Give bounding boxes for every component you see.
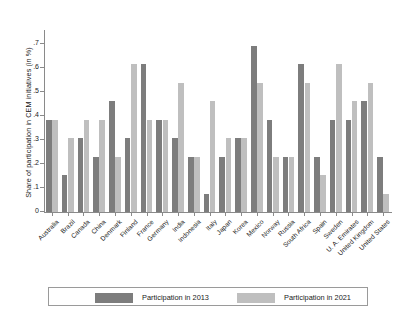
y-tick-label: 0 (35, 206, 39, 215)
bar-2013 (361, 101, 367, 212)
y-tick-label: .4 (33, 110, 39, 119)
x-tick-mark (83, 213, 84, 216)
x-tick-mark (225, 213, 226, 216)
bar-2021 (210, 101, 216, 212)
x-tick-mark (288, 213, 289, 216)
bar-group (186, 32, 202, 212)
bar-group (375, 32, 391, 212)
bar-2013 (346, 120, 352, 212)
bar-group (44, 32, 60, 212)
bar-2021 (352, 101, 358, 212)
bar-2021 (84, 120, 90, 212)
y-tick-p3: .3 (32, 139, 44, 140)
bar-2013 (188, 157, 194, 212)
bar-2021 (99, 120, 105, 212)
bar-2021 (178, 83, 184, 212)
bar-group (76, 32, 92, 212)
bar-group (202, 32, 218, 212)
y-tick-label: .6 (33, 62, 39, 71)
y-tick-p5: .5 (32, 91, 44, 92)
bar-2013 (314, 157, 320, 212)
bar-group (296, 32, 312, 212)
x-tick-mark (115, 213, 116, 216)
x-tick-mark (241, 213, 242, 216)
bar-2021 (320, 175, 326, 212)
bar-2013 (235, 138, 241, 212)
bar-2013 (172, 138, 178, 212)
bar-group (265, 32, 281, 212)
legend-swatch-2021 (237, 293, 275, 303)
bar-group (359, 32, 375, 212)
bar-2021 (336, 64, 342, 212)
x-axis-labels: AustraliaBrazilCanadaChinaDenmarkFinland… (44, 213, 391, 275)
bar-2013 (156, 120, 162, 212)
y-tick-0: 0 (32, 211, 44, 212)
y-axis-title: Share of participation in CEM initiative… (24, 23, 33, 223)
y-tick-label: .5 (33, 86, 39, 95)
bar-2021 (368, 83, 374, 212)
bar-2021 (273, 157, 279, 212)
legend-label-2021: Participation in 2021 (284, 293, 351, 302)
legend-item-2021: Participation in 2021 (237, 292, 351, 303)
bar-group (233, 32, 249, 212)
y-tick-p1: .1 (32, 187, 44, 188)
bar-2021 (194, 157, 200, 212)
bar-2021 (241, 138, 247, 212)
bar-2021 (257, 83, 263, 212)
bar-2021 (115, 157, 121, 212)
y-tick-p6: .6 (32, 67, 44, 68)
bar-2013 (62, 175, 68, 212)
bar-2013 (283, 157, 289, 212)
bar-2013 (219, 157, 225, 212)
x-tick-mark (162, 213, 163, 216)
bar-2021 (68, 138, 74, 212)
bar-2013 (125, 138, 131, 212)
x-tick-mark (194, 213, 195, 216)
bar-group (328, 32, 344, 212)
bar-2013 (78, 138, 84, 212)
x-tick-mark (178, 213, 179, 216)
bar-group (139, 32, 155, 212)
bar-2021 (52, 120, 58, 212)
x-tick-mark (131, 213, 132, 216)
bar-2013 (93, 157, 99, 212)
y-tick-p2: .2 (32, 163, 44, 164)
bar-group (249, 32, 265, 212)
x-tick-mark (367, 213, 368, 216)
bar-2013 (377, 157, 383, 212)
bar-group (344, 32, 360, 212)
bar-2013 (204, 194, 210, 212)
x-tick-mark (52, 213, 53, 216)
bar-group (107, 32, 123, 212)
bar-2013 (251, 46, 257, 212)
legend-swatch-2013 (95, 293, 133, 303)
plot-area: 0.1.2.3.4.5.6.7 (44, 32, 391, 212)
bar-2013 (141, 64, 147, 212)
bar-group (91, 32, 107, 212)
y-tick-p7: .7 (32, 43, 44, 44)
bar-2013 (298, 64, 304, 212)
bar-group (60, 32, 76, 212)
bar-group (312, 32, 328, 212)
x-axis-label: Japan (215, 218, 233, 236)
bar-group (154, 32, 170, 212)
bar-group (170, 32, 186, 212)
bar-2013 (330, 120, 336, 212)
x-tick-mark (383, 213, 384, 216)
bar-2021 (131, 64, 137, 212)
bar-series-container (44, 32, 391, 212)
x-tick-mark (352, 213, 353, 216)
x-tick-mark (68, 213, 69, 216)
bar-2021 (383, 194, 389, 212)
bar-group (281, 32, 297, 212)
x-tick-mark (304, 213, 305, 216)
x-tick-mark (210, 213, 211, 216)
bar-2013 (46, 120, 52, 212)
bar-2013 (267, 120, 273, 212)
bar-group (218, 32, 234, 212)
x-tick-mark (336, 213, 337, 216)
x-tick-mark (147, 213, 148, 216)
y-tick-label: .1 (33, 182, 39, 191)
legend-label-2013: Participation in 2013 (142, 293, 209, 302)
y-tick-p4: .4 (32, 115, 44, 116)
